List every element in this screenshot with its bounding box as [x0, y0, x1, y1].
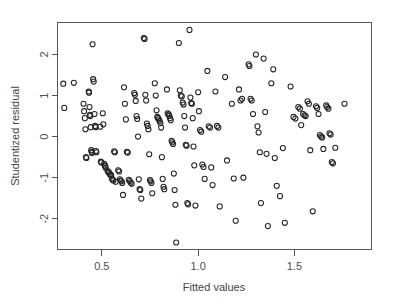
scatter-point — [223, 75, 228, 80]
scatter-point — [277, 194, 282, 199]
scatter-point — [263, 109, 268, 114]
scatter-point — [174, 240, 179, 245]
scatter-point — [265, 224, 270, 229]
scatter-chart-canvas: 0.51.01.5 210-1-2 Fitted values Studenti… — [0, 0, 395, 304]
x-tick-label: 1.5 — [287, 260, 302, 272]
scatter-point — [81, 101, 86, 106]
scatter-point — [261, 56, 266, 61]
scatter-point — [199, 129, 204, 134]
scatter-point — [135, 134, 140, 139]
scatter-point — [272, 155, 277, 160]
scatter-point — [144, 98, 149, 103]
scatter-point — [196, 109, 201, 114]
scatter-point — [315, 105, 320, 110]
scatter-point — [182, 114, 187, 119]
scatter-point — [253, 52, 258, 57]
scatter-point — [257, 150, 262, 155]
scatter-points-layer — [61, 27, 347, 245]
scatter-point — [249, 98, 254, 103]
scatter-point — [147, 152, 152, 157]
y-tick-label: -1 — [39, 173, 51, 183]
scatter-point — [182, 125, 187, 130]
scatter-point — [150, 191, 155, 196]
scatter-point — [159, 155, 164, 160]
scatter-point — [231, 176, 236, 181]
scatter-point — [123, 117, 128, 122]
scatter-point — [236, 87, 241, 92]
scatter-point — [209, 165, 214, 170]
scatter-point — [190, 116, 195, 121]
scatter-point — [90, 42, 95, 47]
y-axis-ticks: 210-1-2 — [39, 51, 58, 223]
scatter-point — [61, 81, 66, 86]
scatter-point — [217, 204, 222, 209]
scatter-point — [82, 109, 87, 114]
scatter-point — [153, 93, 158, 98]
y-tick-label: 1 — [39, 93, 51, 99]
scatter-point — [213, 89, 218, 94]
residual-plot-figure: 0.51.01.5 210-1-2 Fitted values Studenti… — [0, 0, 395, 304]
scatter-point — [299, 123, 304, 128]
scatter-point — [196, 90, 201, 95]
scatter-point — [120, 192, 125, 197]
scatter-point — [122, 101, 127, 106]
scatter-point — [173, 202, 178, 207]
scatter-point — [191, 144, 196, 149]
scatter-point — [139, 196, 144, 201]
scatter-point — [146, 127, 151, 132]
scatter-point — [241, 175, 246, 180]
scatter-point — [71, 80, 76, 85]
scatter-point — [330, 161, 335, 166]
scatter-point — [176, 40, 181, 45]
x-tick-label: 0.5 — [94, 260, 109, 272]
scatter-point — [133, 98, 138, 103]
scatter-point — [210, 183, 215, 188]
scatter-point — [164, 87, 169, 92]
scatter-point — [136, 177, 141, 182]
scatter-point — [172, 187, 177, 192]
scatter-point — [229, 101, 234, 106]
scatter-point — [288, 84, 293, 89]
scatter-point — [258, 201, 263, 206]
scatter-point — [188, 95, 193, 100]
scatter-point — [87, 105, 92, 110]
scatter-point — [83, 127, 88, 132]
scatter-point — [255, 124, 260, 129]
scatter-point — [100, 111, 105, 116]
scatter-point — [328, 132, 333, 137]
scatter-point — [154, 108, 159, 113]
scatter-point — [171, 171, 176, 176]
scatter-point — [342, 101, 347, 106]
x-axis-title: Fitted values — [183, 281, 246, 293]
scatter-point — [310, 209, 315, 214]
scatter-point — [187, 27, 192, 32]
scatter-point — [233, 218, 238, 223]
scatter-point — [202, 176, 207, 181]
x-axis-ticks: 0.51.01.5 — [94, 250, 302, 272]
scatter-point — [143, 92, 148, 97]
scatter-point — [274, 183, 279, 188]
scatter-point — [62, 105, 67, 110]
scatter-point — [160, 176, 165, 181]
scatter-point — [193, 203, 198, 208]
y-tick-label: -2 — [39, 214, 51, 224]
scatter-point — [82, 116, 87, 121]
scatter-point — [264, 151, 269, 156]
scatter-point — [152, 81, 157, 86]
scatter-point — [269, 81, 274, 86]
scatter-point — [192, 163, 197, 168]
y-tick-label: 0 — [39, 134, 51, 140]
scatter-point — [121, 85, 126, 90]
scatter-point — [256, 130, 261, 135]
scatter-point — [282, 220, 287, 225]
scatter-point — [308, 148, 313, 153]
scatter-point — [177, 88, 182, 93]
scatter-point — [333, 145, 338, 150]
scatter-point — [271, 67, 276, 72]
y-axis-title: Studentized residual — [9, 86, 21, 186]
y-tick-label: 2 — [39, 51, 51, 57]
x-tick-label: 1.0 — [190, 260, 205, 272]
scatter-point — [250, 111, 255, 116]
scatter-point — [321, 146, 326, 151]
scatter-point — [224, 158, 229, 163]
